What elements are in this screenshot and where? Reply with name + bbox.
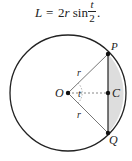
- label-r-upper: r: [77, 67, 81, 78]
- label-q: Q: [109, 133, 118, 147]
- label-t: t: [78, 88, 81, 99]
- radius-oq: [68, 93, 108, 133]
- radius-op: [68, 54, 108, 93]
- label-p: P: [110, 40, 118, 52]
- point-o: [66, 91, 70, 95]
- point-p: [106, 52, 110, 56]
- label-o: O: [55, 86, 64, 100]
- label-r-lower: r: [77, 109, 81, 120]
- circle-diagram: O t r r P C Q: [0, 0, 132, 161]
- point-c: [106, 91, 110, 95]
- label-c: C: [112, 86, 121, 100]
